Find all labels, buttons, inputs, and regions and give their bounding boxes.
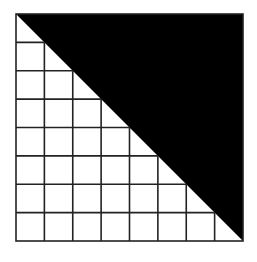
grid-diagram xyxy=(0,0,257,262)
